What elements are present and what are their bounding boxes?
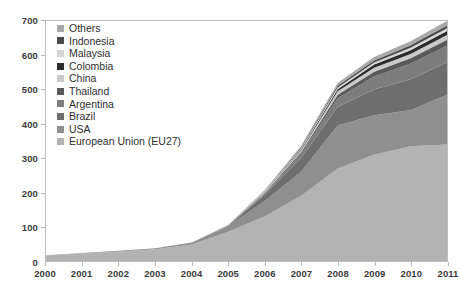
legend-swatch-icon <box>57 63 64 70</box>
x-tick-mark <box>301 262 302 266</box>
legend-item[interactable]: Indonesia <box>57 35 181 48</box>
area-series-european-union-eu27 <box>46 144 447 261</box>
legend-item[interactable]: European Union (EU27) <box>57 135 181 148</box>
legend-item[interactable]: USA <box>57 123 181 136</box>
legend-swatch-icon <box>57 75 64 82</box>
legend-item-label: China <box>69 73 96 84</box>
x-axis: 2000200120022003200420052006200720082009… <box>45 262 448 293</box>
x-tick-label: 2003 <box>144 268 166 279</box>
y-tick-label: 100 <box>22 222 38 233</box>
x-tick-label: 2010 <box>401 268 423 279</box>
legend-item-label: Brazil <box>69 111 95 122</box>
x-tick-label: 2004 <box>181 268 203 279</box>
x-tick-mark <box>118 262 119 266</box>
x-tick-mark <box>338 262 339 266</box>
x-tick-label: 2005 <box>217 268 239 279</box>
y-tick-label: 600 <box>22 49 38 60</box>
x-tick-label: 2009 <box>364 268 386 279</box>
legend-item-label: Colombia <box>69 61 113 72</box>
y-tick-label: 500 <box>22 84 38 95</box>
x-tick-label: 2001 <box>71 268 93 279</box>
x-tick-mark <box>375 262 376 266</box>
legend-item[interactable]: Brazil <box>57 110 181 123</box>
x-tick-mark <box>82 262 83 266</box>
y-tick-label: 700 <box>22 15 38 26</box>
legend-item-label: Malaysia <box>69 48 110 59</box>
legend-item[interactable]: Thailand <box>57 85 181 98</box>
legend-item[interactable]: Argentina <box>57 98 181 111</box>
x-tick-label: 2006 <box>254 268 276 279</box>
y-tick-label: 300 <box>22 153 38 164</box>
legend-item-label: Others <box>69 23 101 34</box>
legend-item-label: USA <box>69 124 91 135</box>
y-tick-label: 200 <box>22 187 38 198</box>
legend-item-label: Thailand <box>69 86 109 97</box>
legend-swatch-icon <box>57 50 64 57</box>
x-tick-label: 2011 <box>437 268 458 279</box>
legend-swatch-icon <box>57 25 64 32</box>
y-tick-label: 0 <box>33 257 38 268</box>
x-tick-label: 2000 <box>34 268 56 279</box>
legend-item[interactable]: Others <box>57 22 181 35</box>
x-tick-mark <box>265 262 266 266</box>
legend-item[interactable]: China <box>57 72 181 85</box>
legend-swatch-icon <box>57 88 64 95</box>
legend-swatch-icon <box>57 100 64 107</box>
x-tick-label: 2002 <box>107 268 129 279</box>
x-tick-mark <box>45 262 46 266</box>
chart-legend: OthersIndonesiaMalaysiaColombiaChinaThai… <box>57 22 181 148</box>
legend-swatch-icon <box>57 113 64 120</box>
x-tick-label: 2007 <box>291 268 313 279</box>
y-axis: 0100200300400500600700 <box>0 0 45 282</box>
x-tick-mark <box>192 262 193 266</box>
legend-swatch-icon <box>57 138 64 145</box>
legend-item-label: European Union (EU27) <box>69 136 181 147</box>
legend-swatch-icon <box>57 126 64 133</box>
legend-swatch-icon <box>57 37 64 44</box>
x-tick-label: 2008 <box>327 268 349 279</box>
y-tick-label: 400 <box>22 118 38 129</box>
legend-item[interactable]: Colombia <box>57 60 181 73</box>
x-tick-mark <box>155 262 156 266</box>
legend-item-label: Indonesia <box>69 36 115 47</box>
legend-item-label: Argentina <box>69 99 114 110</box>
x-tick-mark <box>448 262 449 266</box>
x-tick-mark <box>411 262 412 266</box>
x-tick-mark <box>228 262 229 266</box>
legend-item[interactable]: Malaysia <box>57 47 181 60</box>
